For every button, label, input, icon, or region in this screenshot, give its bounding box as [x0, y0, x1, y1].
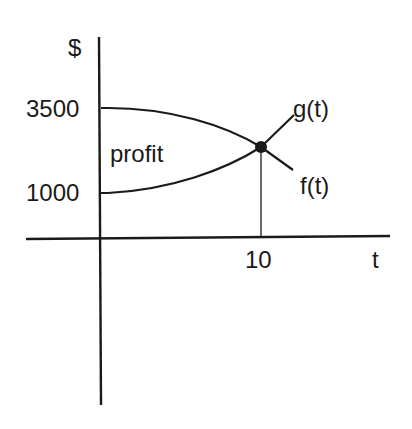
g-curve-label: g(t)	[293, 95, 329, 122]
y-axis	[99, 37, 101, 405]
f-curve-label: f(t)	[300, 172, 329, 199]
x-axis	[26, 236, 390, 239]
y-tick-1000: 1000	[26, 179, 79, 206]
intersection-point	[255, 141, 267, 153]
x-tick-10: 10	[245, 246, 272, 273]
y-tick-3500: 3500	[26, 95, 79, 122]
profit-diagram: $ 3500 1000 profit g(t) f(t) 10 t	[0, 0, 412, 429]
profit-label: profit	[110, 140, 164, 167]
x-axis-label: t	[372, 246, 379, 273]
y-axis-label: $	[68, 34, 81, 61]
